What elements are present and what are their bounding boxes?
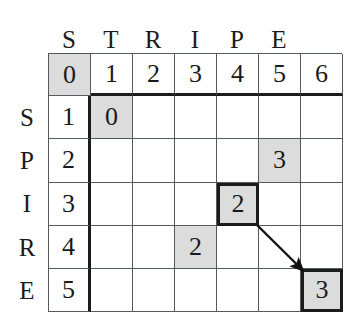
column-index-cell: 5: [259, 54, 301, 96]
matrix-cell: [133, 226, 175, 269]
matrix-cell: [133, 269, 175, 312]
row-index-cell: 2: [49, 139, 91, 182]
column-header-letter: S: [48, 14, 90, 52]
edit-distance-matrix-figure: S T R I P E S P I R E 0 1 2 3 4 5 6 1 0: [0, 0, 359, 327]
table-row: 2 3: [49, 139, 343, 182]
column-header-letters: S T R I P E: [48, 14, 342, 52]
matrix-cell: [301, 183, 343, 226]
row-header-letter: S: [8, 96, 46, 139]
row-index-cell: 3: [49, 183, 91, 226]
matrix-cell: [91, 226, 133, 269]
column-header-letter: I: [174, 14, 216, 52]
matrix-cell-highlighted: 3: [301, 269, 343, 312]
matrix-cell: [259, 226, 301, 269]
table-row: 4 2: [49, 226, 343, 269]
matrix-cell: [217, 269, 259, 312]
table-row: 0 1 2 3 4 5 6: [49, 54, 343, 96]
matrix-cell-highlighted: 2: [217, 183, 259, 226]
matrix-cell: [217, 96, 259, 139]
matrix-cell: [217, 139, 259, 182]
matrix-cell: [175, 269, 217, 312]
matrix-cell: [133, 139, 175, 182]
matrix-cell: [301, 226, 343, 269]
matrix-cell: 0: [91, 96, 133, 139]
row-index-cell: 4: [49, 226, 91, 269]
table-row: 1 0: [49, 96, 343, 139]
matrix-cell: [259, 183, 301, 226]
row-index-cell: 1: [49, 96, 91, 139]
column-header-letter: P: [216, 14, 258, 52]
matrix-cell: 3: [259, 139, 301, 182]
matrix-cell: [301, 96, 343, 139]
row-index-cell: 0: [49, 54, 91, 96]
column-header-letter: R: [132, 14, 174, 52]
row-header-letters: S P I R E: [8, 96, 46, 312]
row-header-letter: P: [8, 139, 46, 182]
matrix-cell: [91, 139, 133, 182]
matrix-cell: [133, 96, 175, 139]
matrix-grid: 0 1 2 3 4 5 6 1 0 2 3: [48, 53, 342, 312]
row-header-letter: R: [8, 226, 46, 269]
matrix-cell: [259, 96, 301, 139]
column-index-cell: 1: [91, 54, 133, 96]
column-header-letter: E: [258, 14, 300, 52]
matrix-cell: [175, 139, 217, 182]
table-row: 3 2: [49, 183, 343, 226]
column-index-cell: 6: [301, 54, 343, 96]
column-index-cell: 3: [175, 54, 217, 96]
matrix-cell: [91, 183, 133, 226]
matrix-cell: [301, 139, 343, 182]
column-index-cell: 4: [217, 54, 259, 96]
matrix-cell: [175, 183, 217, 226]
matrix-cell: [175, 96, 217, 139]
column-index-cell: 2: [133, 54, 175, 96]
matrix-cell: [133, 183, 175, 226]
table-row: 5 3: [49, 269, 343, 312]
row-header-letter: E: [8, 269, 46, 312]
matrix-cell: [91, 269, 133, 312]
matrix-cell: [259, 269, 301, 312]
matrix-cell: [217, 226, 259, 269]
row-header-letter: I: [8, 182, 46, 225]
row-index-cell: 5: [49, 269, 91, 312]
column-header-letter: T: [90, 14, 132, 52]
matrix-cell: 2: [175, 226, 217, 269]
